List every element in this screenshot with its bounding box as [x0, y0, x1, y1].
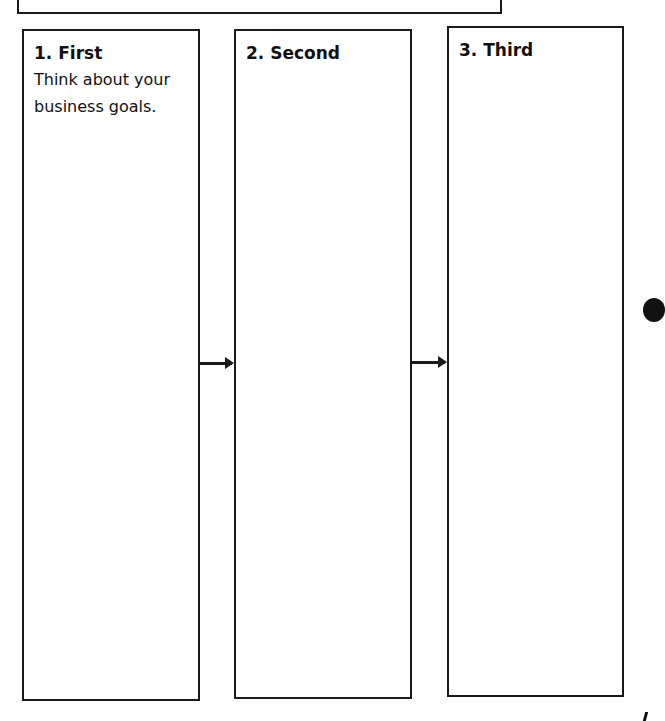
step-title: 1. First [34, 43, 198, 63]
edge-mark [643, 712, 648, 721]
step-box-second: 2. Second [234, 29, 412, 699]
step-description: Think about your business goals. [34, 66, 194, 120]
top-header-box [17, 0, 502, 14]
step-box-third: 3. Third [447, 26, 624, 697]
bullet-dot-icon [643, 298, 665, 322]
step-title: 2. Second [246, 43, 410, 63]
arrow-right-icon [412, 361, 445, 364]
step-box-first: 1. First Think about your business goals… [22, 29, 200, 701]
arrow-right-icon [200, 362, 232, 365]
step-title: 3. Third [459, 40, 622, 60]
